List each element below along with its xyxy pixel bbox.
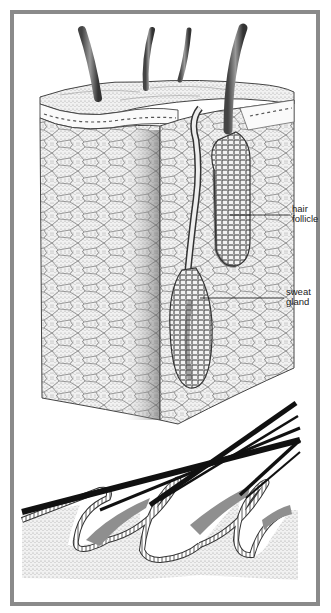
label-sweat-gland: sweat gland [286, 287, 311, 307]
skin-block [40, 80, 294, 424]
follicle-section [22, 403, 300, 580]
label-gland: gland [286, 297, 311, 307]
label-hair-follicle: hair follicle [292, 204, 318, 224]
skin-illustration [0, 0, 331, 613]
label-follicle: follicle [292, 214, 318, 224]
